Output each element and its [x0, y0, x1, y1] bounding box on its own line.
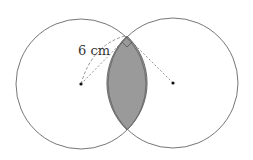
length-label: 6 cm: [78, 43, 110, 58]
left-center-point: [79, 82, 82, 85]
two-circles-diagram: 6 cm: [0, 0, 253, 160]
right-center-point: [171, 81, 174, 84]
diagram: 6 cm: [0, 0, 253, 160]
lens-shaded-region: [107, 36, 147, 130]
